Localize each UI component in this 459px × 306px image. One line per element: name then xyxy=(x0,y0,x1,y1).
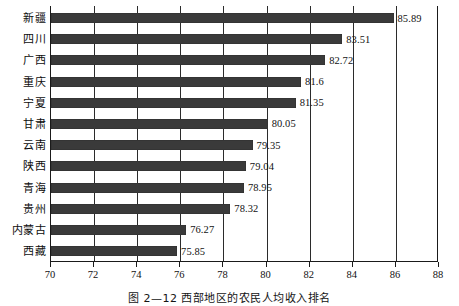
bar-value-label: 79.35 xyxy=(257,137,281,154)
bar xyxy=(51,204,230,214)
category-label: 贵州 xyxy=(0,199,46,220)
category-label: 重庆 xyxy=(0,72,46,93)
category-label: 西藏 xyxy=(0,241,46,262)
category-label: 青海 xyxy=(0,178,46,199)
bar xyxy=(51,55,325,65)
category-label: 甘肃 xyxy=(0,114,46,135)
value-axis: 70727476788082848688 xyxy=(50,262,438,288)
figure-caption: 图 2—12 西部地区的农民人均收入排名 xyxy=(0,292,459,306)
bar-value-label: 85.89 xyxy=(398,10,422,27)
bar-value-label: 79.04 xyxy=(250,158,274,175)
axis-tick-label: 70 xyxy=(45,268,56,282)
bar-value-label: 81.6 xyxy=(305,73,324,90)
bar xyxy=(51,34,342,44)
axis-tick-label: 84 xyxy=(347,268,358,282)
bar-row: 81.6 xyxy=(51,72,437,93)
bar-row: 78.95 xyxy=(51,178,437,199)
category-label: 内蒙古 xyxy=(0,220,46,241)
axis-tick-mark xyxy=(93,262,94,267)
axis-tick-label: 74 xyxy=(131,268,142,282)
plot-area: 85.8983.5182.7281.681.3580.0579.3579.047… xyxy=(50,6,438,262)
axis-tick-label: 78 xyxy=(217,268,228,282)
bar-value-label: 83.51 xyxy=(346,31,370,48)
bar-row: 80.05 xyxy=(51,114,437,135)
bar xyxy=(51,13,394,23)
bar-value-label: 75.85 xyxy=(181,243,205,260)
bar-row: 76.27 xyxy=(51,220,437,241)
bar xyxy=(51,183,244,193)
bar xyxy=(51,98,296,108)
bar xyxy=(51,77,301,87)
axis-tick-label: 72 xyxy=(88,268,99,282)
axis-tick-mark xyxy=(438,262,439,267)
bar xyxy=(51,119,268,129)
axis-tick-mark xyxy=(395,262,396,267)
axis-tick-mark xyxy=(352,262,353,267)
bar-value-label: 78.95 xyxy=(248,179,272,196)
bar-row: 78.32 xyxy=(51,199,437,220)
category-label: 新疆 xyxy=(0,8,46,29)
category-label: 陕西 xyxy=(0,156,46,177)
axis-tick-label: 76 xyxy=(174,268,185,282)
bar-row: 85.89 xyxy=(51,8,437,29)
category-label: 广西 xyxy=(0,50,46,71)
axis-tick-mark xyxy=(266,262,267,267)
bar-row: 75.85 xyxy=(51,241,437,262)
category-label: 四川 xyxy=(0,29,46,50)
axis-tick-label: 88 xyxy=(433,268,444,282)
bar xyxy=(51,246,177,256)
axis-tick-mark xyxy=(179,262,180,267)
category-label: 宁夏 xyxy=(0,93,46,114)
axis-tick-label: 80 xyxy=(260,268,271,282)
bar-chart-figure: 新疆四川广西重庆宁夏甘肃云南陕西青海贵州内蒙古西藏 85.8983.5182.7… xyxy=(0,0,459,306)
axis-tick-mark xyxy=(222,262,223,267)
bar xyxy=(51,225,186,235)
axis-tick-label: 86 xyxy=(390,268,401,282)
bar-row: 81.35 xyxy=(51,93,437,114)
category-label: 云南 xyxy=(0,135,46,156)
category-axis-labels: 新疆四川广西重庆宁夏甘肃云南陕西青海贵州内蒙古西藏 xyxy=(0,6,46,262)
bar-row: 82.72 xyxy=(51,50,437,71)
bar xyxy=(51,161,246,171)
axis-tick-label: 82 xyxy=(303,268,314,282)
bar-value-label: 81.35 xyxy=(300,94,324,111)
bar-row: 79.04 xyxy=(51,156,437,177)
bar-value-label: 78.32 xyxy=(234,200,258,217)
axis-tick-mark xyxy=(50,262,51,267)
bar-row: 83.51 xyxy=(51,29,437,50)
axis-tick-mark xyxy=(309,262,310,267)
bar-value-label: 82.72 xyxy=(329,52,353,69)
bar-value-label: 80.05 xyxy=(272,115,296,132)
bar-row: 79.35 xyxy=(51,135,437,156)
bar-value-label: 76.27 xyxy=(190,221,214,238)
axis-tick-mark xyxy=(136,262,137,267)
bar xyxy=(51,140,253,150)
